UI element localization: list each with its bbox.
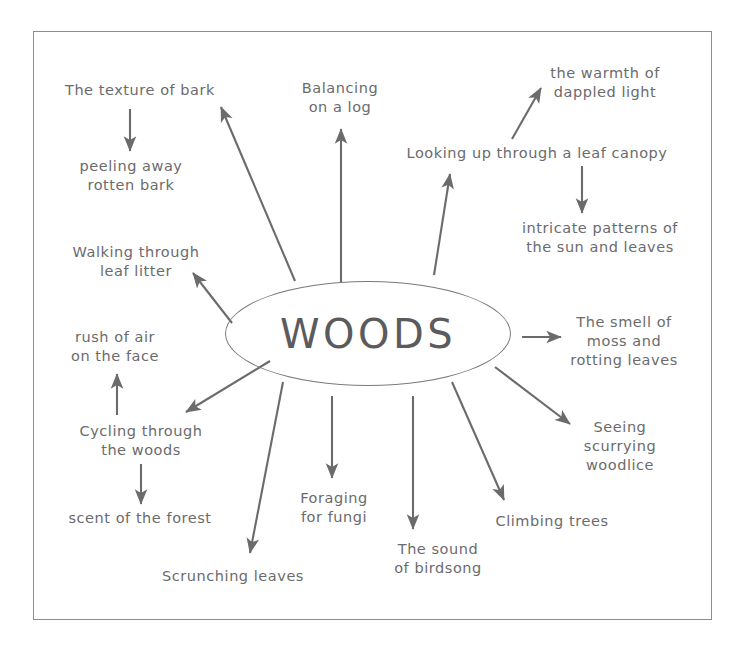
node-climbing-trees: Climbing trees: [496, 512, 609, 531]
central-node-label: WOODS: [280, 312, 456, 356]
node-walking-through-leaf-litter: Walking through leaf litter: [73, 243, 200, 281]
node-intricate-patterns: intricate patterns of the sun and leaves: [522, 219, 678, 257]
mind-map-canvas: WOODS The texture of bark peeling away r…: [0, 0, 736, 650]
node-smell-of-moss-and-rotting-leaves: The smell of moss and rotting leaves: [570, 313, 678, 370]
node-foraging-for-fungi: Foraging for fungi: [300, 489, 368, 527]
node-seeing-scurrying-woodlice: Seeing scurrying woodlice: [584, 418, 656, 475]
node-peeling-away-rotten-bark: peeling away rotten bark: [80, 157, 183, 195]
node-balancing-on-a-log: Balancing on a log: [302, 79, 378, 117]
node-scent-of-the-forest: scent of the forest: [68, 509, 211, 528]
node-the-sound-of-birdsong: The sound of birdsong: [394, 540, 482, 578]
node-looking-up-through-a-leaf-canopy: Looking up through a leaf canopy: [407, 144, 668, 163]
node-rush-of-air-on-the-face: rush of air on the face: [71, 328, 159, 366]
node-scrunching-leaves: Scrunching leaves: [162, 567, 304, 586]
node-cycling-through-the-woods: Cycling through the woods: [80, 422, 203, 460]
node-texture-of-bark: The texture of bark: [65, 81, 215, 100]
node-warmth-of-dappled-light: the warmth of dappled light: [550, 64, 660, 102]
